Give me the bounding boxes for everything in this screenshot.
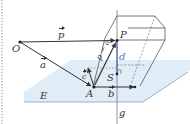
box-top-edges	[105, 16, 165, 38]
label-line-g: g	[119, 108, 125, 118]
label-vector-p: p	[58, 30, 64, 40]
point-p	[115, 39, 118, 42]
point-s	[116, 73, 119, 76]
label-plane-e: E	[40, 91, 47, 101]
diagram-canvas: O P A S p a p − a c b d E g	[0, 0, 190, 124]
diagram-svg	[0, 0, 190, 124]
label-point-s: S	[107, 73, 114, 83]
label-vector-b: b	[108, 89, 114, 99]
label-distance-d: d	[119, 52, 125, 62]
point-b-end	[134, 86, 137, 89]
label-point-p: P	[120, 30, 127, 40]
label-vector-a: a	[40, 60, 46, 70]
label-point-o: O	[12, 44, 20, 54]
label-vector-c: c	[82, 73, 86, 81]
label-point-a: A	[86, 89, 93, 99]
